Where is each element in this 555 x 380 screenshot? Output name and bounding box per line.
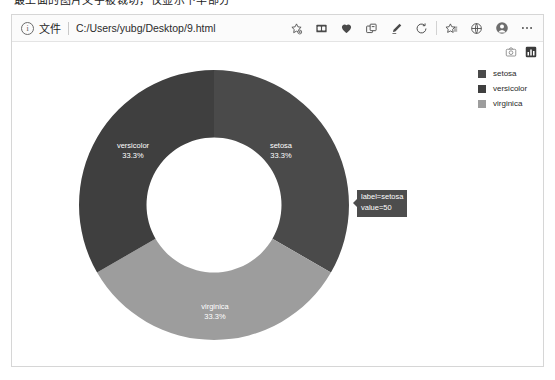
chart-legend: setosa versicolor virginica [478, 67, 527, 112]
toolbar-icon-group [284, 17, 539, 39]
heart-icon[interactable] [334, 17, 359, 39]
pie-slice-setosa[interactable] [214, 70, 349, 273]
legend-label-versicolor: versicolor [493, 84, 527, 93]
address-url-text[interactable]: C:/Users/yubg/Desktop/9.html [76, 22, 284, 34]
profile-avatar-icon[interactable] [489, 17, 514, 39]
shopping-icon[interactable] [359, 17, 384, 39]
history-icon[interactable] [409, 17, 434, 39]
page-content-area: setosa 33.3% virginica 33.3% versicolor … [12, 42, 543, 366]
legend-swatch-setosa [478, 70, 486, 78]
browser-window: i 文件 C:/Users/yubg/Desktop/9.html [11, 14, 544, 367]
pie-slice-versicolor[interactable] [79, 70, 214, 273]
legend-label-setosa: setosa [493, 69, 517, 78]
toolbar-separator [436, 21, 437, 35]
extensions-icon[interactable] [464, 17, 489, 39]
pen-icon[interactable] [384, 17, 409, 39]
pie-chart: setosa 33.3% virginica 33.3% versicolor … [12, 42, 543, 366]
legend-item-setosa[interactable]: setosa [478, 67, 527, 80]
legend-swatch-virginica [478, 100, 486, 108]
donut-graphic: setosa 33.3% virginica 33.3% versicolor … [54, 45, 374, 365]
legend-item-virginica[interactable]: virginica [478, 97, 527, 110]
page-top-cut-text: 最上面的图片文字被裁切，仅显示下半部分 [14, 0, 231, 7]
add-favorite-icon[interactable] [284, 17, 309, 39]
favorites-list-icon[interactable] [439, 17, 464, 39]
legend-item-versicolor[interactable]: versicolor [478, 82, 527, 95]
address-scheme-label: 文件 [39, 20, 61, 36]
collections-icon[interactable] [309, 17, 334, 39]
more-options-icon[interactable] [514, 17, 539, 39]
legend-label-virginica: virginica [493, 99, 522, 108]
browser-toolbar: i 文件 C:/Users/yubg/Desktop/9.html [12, 15, 543, 42]
pie-slice-virginica[interactable] [97, 239, 331, 340]
address-divider [68, 22, 69, 35]
info-circle-icon[interactable]: i [21, 22, 34, 35]
donut-svg [54, 45, 374, 365]
legend-swatch-versicolor [478, 85, 486, 93]
